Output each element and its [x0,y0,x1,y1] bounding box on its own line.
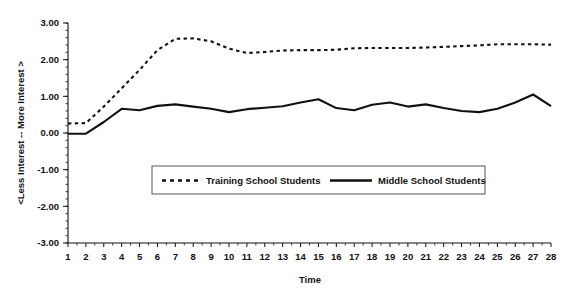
x-tick-label: 19 [385,251,396,262]
x-tick-label: 18 [367,251,378,262]
y-tick-label: 3.00 [41,17,60,28]
x-tick-label: 5 [137,251,143,262]
y-tick-label: -2.00 [37,201,59,212]
line-chart: 3.002.001.000.00-1.00-2.00-3.00 12345678… [0,0,567,297]
legend-label-training-school-students: Training School Students [206,175,321,186]
x-tick-label: 24 [474,251,485,262]
y-tick-label: 1.00 [41,91,60,102]
x-tick-label: 15 [313,251,324,262]
x-tick-label: 14 [295,251,306,262]
x-tick-label: 9 [208,251,213,262]
x-tick-label: 2 [83,251,88,262]
x-tick-label: 21 [420,251,431,262]
x-tick-label: 10 [224,251,235,262]
y-tick-label: -3.00 [37,237,59,248]
chart-container: 3.002.001.000.00-1.00-2.00-3.00 12345678… [0,0,567,297]
x-tick-label: 3 [101,251,106,262]
x-tick-label: 11 [242,251,253,262]
x-tick-label: 26 [510,251,521,262]
x-tick-label: 20 [403,251,414,262]
x-tick-label: 12 [259,251,270,262]
x-tick-label: 16 [331,251,342,262]
x-tick-label: 1 [65,251,71,262]
x-tick-label: 4 [119,251,125,262]
x-tick-label: 13 [277,251,288,262]
x-tick-label: 27 [528,251,539,262]
x-tick-label: 6 [155,251,160,262]
y-tick-label: 2.00 [41,54,60,65]
x-tick-label: 23 [456,251,467,262]
y-axis-title: <Less Interest -- More Interest > [15,61,26,205]
x-axis-title: Time [299,274,321,285]
x-tick-label: 25 [492,251,503,262]
x-tick-label: 28 [546,251,557,262]
x-tick-label: 22 [438,251,449,262]
x-tick-label: 17 [349,251,360,262]
x-tick-label: 8 [191,251,196,262]
legend-label-middle-school-students: Middle School Students [378,175,486,186]
y-tick-label: 0.00 [41,127,60,138]
y-tick-label: -1.00 [37,164,59,175]
x-tick-label: 7 [173,251,178,262]
chart-legend: Training School Students Middle School S… [152,166,486,194]
